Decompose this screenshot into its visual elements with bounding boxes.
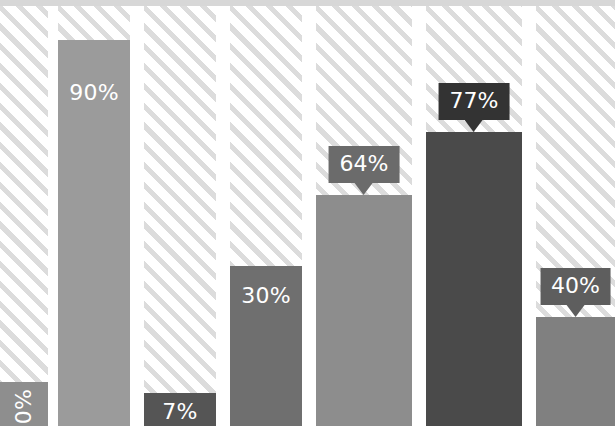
chart-plot-area: 0%90%7%30%64%77%40% — [0, 0, 615, 426]
value-label: 30% — [230, 285, 302, 307]
track-1 — [0, 0, 48, 426]
value-label: 90% — [58, 82, 130, 104]
bar-7[interactable] — [536, 317, 615, 426]
chart-column: 77% — [426, 0, 522, 426]
value-label: 77% — [450, 88, 499, 113]
value-label: 64% — [340, 151, 389, 176]
value-label: 0% — [13, 389, 35, 424]
chart-column: 7% — [144, 0, 216, 426]
track-3 — [144, 0, 216, 426]
percentage-bar-chart: 0%90%7%30%64%77%40% — [0, 0, 615, 426]
top-edge-band — [0, 0, 615, 6]
value-label: 7% — [144, 401, 216, 423]
chart-column: 30% — [230, 0, 302, 426]
chart-column: 0% — [0, 0, 48, 426]
bar-5[interactable] — [316, 195, 412, 426]
value-callout: 64% — [329, 146, 400, 183]
chart-column: 64% — [316, 0, 412, 426]
value-label: 40% — [551, 273, 600, 298]
chart-column: 40% — [536, 0, 615, 426]
value-callout: 77% — [439, 83, 510, 120]
chart-column: 90% — [58, 0, 130, 426]
value-callout: 40% — [540, 268, 611, 305]
bar-6[interactable] — [426, 132, 522, 426]
